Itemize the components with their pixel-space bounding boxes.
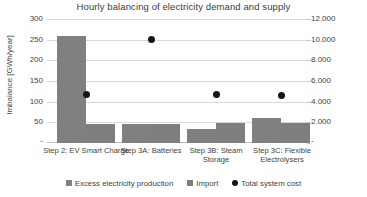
bar-import-step2 — [86, 124, 115, 143]
gridline-150 — [47, 81, 307, 82]
category-label-step3c: Step 3C: Flexible Electrolysers — [240, 146, 324, 165]
gridline-100 — [47, 102, 307, 103]
legend-label-import: Import — [196, 179, 218, 188]
legend-label-total-cost: Total system cost — [241, 179, 301, 188]
x-axis-categories: Step 2: EV Smart Charge Step 3A: Batteri… — [47, 146, 307, 172]
bar-import-step3a — [151, 124, 180, 143]
legend-circle-icon-total-cost — [232, 180, 238, 186]
left-tick-150: 150 — [30, 77, 43, 85]
bar-excess-step3c — [252, 118, 281, 143]
bar-import-step3c — [281, 123, 310, 143]
legend-item-total-cost: Total system cost — [232, 179, 301, 188]
gridline-300 — [47, 19, 307, 20]
left-tick-50: 50 — [34, 118, 43, 126]
legend-item-import: Import — [187, 179, 218, 188]
bar-excess-step2 — [57, 36, 86, 143]
bar-import-step3b — [216, 123, 245, 143]
right-tick-2000: 2.000 — [311, 118, 331, 126]
bar-excess-step3b — [187, 129, 216, 143]
chart-container: Hourly balancing of electricity demand a… — [0, 0, 367, 197]
left-tick-0: - — [40, 137, 43, 145]
right-tick-0: - — [311, 137, 314, 145]
bar-excess-step3a — [122, 124, 151, 143]
dot-total-cost-step3c — [278, 92, 285, 99]
right-tick-4000: 4.000 — [311, 98, 331, 106]
chart-legend: Excess electricity production Import Tot… — [0, 176, 367, 190]
right-tick-12000: 12.000 — [311, 15, 335, 23]
legend-item-excess: Excess electricity production — [66, 179, 173, 188]
right-tick-10000: 10.000 — [311, 36, 335, 44]
right-axis: 12.000 10.000 8.000 6.000 4.000 2.000 - … — [311, 19, 355, 143]
left-axis-title: Imbalance [GWh/year] — [6, 29, 14, 121]
legend-square-icon-import — [187, 180, 193, 186]
gridline-200 — [47, 60, 307, 61]
left-tick-300: 300 — [30, 15, 43, 23]
left-tick-250: 250 — [30, 36, 43, 44]
legend-square-icon-excess — [66, 180, 72, 186]
dot-total-cost-step3a — [148, 36, 155, 43]
left-axis: Imbalance [GWh/year] 300 250 200 150 100… — [0, 19, 43, 143]
plot-area — [47, 19, 307, 143]
right-tick-8000: 8.000 — [311, 56, 331, 64]
legend-label-excess: Excess electricity production — [75, 179, 173, 188]
dot-total-cost-step3b — [213, 91, 220, 98]
chart-title: Hourly balancing of electricity demand a… — [0, 1, 367, 12]
left-tick-200: 200 — [30, 56, 43, 64]
gridline-250 — [47, 40, 307, 41]
left-tick-100: 100 — [30, 98, 43, 106]
right-tick-6000: 6.000 — [311, 77, 331, 85]
dot-total-cost-step2 — [83, 91, 90, 98]
